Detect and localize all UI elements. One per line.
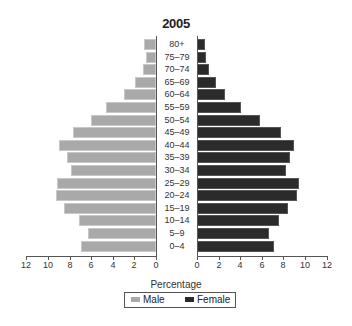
x-tick-label: 0	[146, 260, 166, 270]
legend-label-female: Female	[197, 294, 230, 305]
male-bar	[73, 127, 156, 138]
female-bar	[197, 203, 288, 214]
female-bar	[197, 178, 299, 189]
x-tick-label: 10	[38, 260, 58, 270]
female-bar	[197, 89, 225, 100]
age-group-label: 45–49	[157, 127, 197, 138]
male-bar	[67, 152, 156, 163]
x-tick-label: 2	[209, 260, 229, 270]
age-group-label: 75–79	[157, 52, 197, 63]
male-bar	[81, 241, 156, 252]
x-tick-label: 6	[252, 260, 272, 270]
age-group-label: 30–34	[157, 165, 197, 176]
age-group-label: 10–14	[157, 215, 197, 226]
age-group-label: 0–4	[157, 241, 197, 252]
female-bar	[197, 190, 297, 201]
age-group-label: 65–69	[157, 77, 197, 88]
pyramid-row: 0–4	[0, 241, 352, 252]
male-bar	[143, 64, 156, 75]
pyramid-row: 70–74	[0, 64, 352, 75]
legend-label-male: Male	[143, 294, 165, 305]
female-bar	[197, 52, 206, 63]
female-bar	[197, 140, 294, 151]
pyramid-row: 55–59	[0, 102, 352, 113]
age-group-label: 35–39	[157, 152, 197, 163]
male-swatch-icon	[131, 297, 140, 302]
x-tick-label: 0	[187, 260, 207, 270]
male-bar	[71, 165, 156, 176]
age-group-label: 5–9	[157, 228, 197, 239]
legend-item-female: Female	[185, 294, 230, 305]
pyramid-row: 10–14	[0, 215, 352, 226]
female-bar	[197, 64, 209, 75]
legend: Male Female	[124, 292, 236, 308]
age-group-label: 55–59	[157, 102, 197, 113]
male-bar	[64, 203, 156, 214]
age-group-label: 70–74	[157, 64, 197, 75]
male-axis-baseline	[156, 36, 157, 257]
male-bar	[144, 39, 156, 50]
male-bar	[79, 215, 156, 226]
male-bar	[57, 178, 156, 189]
x-tick-label: 10	[295, 260, 315, 270]
female-bar	[197, 228, 269, 239]
age-group-label: 60–64	[157, 89, 197, 100]
female-bar	[197, 152, 290, 163]
male-bar	[59, 140, 156, 151]
female-swatch-icon	[185, 297, 194, 302]
male-x-axis	[27, 256, 157, 257]
x-tick-label: 8	[273, 260, 293, 270]
pyramid-row: 60–64	[0, 89, 352, 100]
pyramid-row: 65–69	[0, 77, 352, 88]
female-bar	[197, 127, 281, 138]
x-tick-label: 6	[81, 260, 101, 270]
pyramid-row: 30–34	[0, 165, 352, 176]
age-group-label: 25–29	[157, 178, 197, 189]
pyramid-row: 40–44	[0, 140, 352, 151]
x-tick-label: 2	[124, 260, 144, 270]
male-bar	[124, 89, 156, 100]
x-tick-label: 4	[230, 260, 250, 270]
pyramid-row: 45–49	[0, 127, 352, 138]
age-group-label: 40–44	[157, 140, 197, 151]
x-axis-label: Percentage	[0, 279, 352, 290]
female-axis-baseline	[197, 36, 198, 257]
female-bar	[197, 77, 216, 88]
age-group-label: 15–19	[157, 203, 197, 214]
female-bar	[197, 165, 286, 176]
age-group-label: 20–24	[157, 190, 197, 201]
x-tick-label: 12	[16, 260, 36, 270]
x-tick-label: 12	[317, 260, 337, 270]
x-tick-label: 4	[103, 260, 123, 270]
age-group-label: 80+	[157, 39, 197, 50]
male-bar	[88, 228, 156, 239]
pyramid-row: 75–79	[0, 52, 352, 63]
male-bar	[135, 77, 156, 88]
female-bar	[197, 215, 279, 226]
male-bar	[91, 115, 156, 126]
female-bar	[197, 241, 274, 252]
pyramid-row: 20–24	[0, 190, 352, 201]
female-bar	[197, 102, 241, 113]
female-bar	[197, 39, 205, 50]
female-bar	[197, 115, 260, 126]
pyramid-row: 25–29	[0, 178, 352, 189]
pyramid-row: 50–54	[0, 115, 352, 126]
pyramid-row: 80+	[0, 39, 352, 50]
male-bar	[56, 190, 156, 201]
male-bar	[106, 102, 156, 113]
pyramid-row: 35–39	[0, 152, 352, 163]
pyramid-row: 5–9	[0, 228, 352, 239]
male-bar	[146, 52, 156, 63]
chart-title: 2005	[0, 16, 352, 31]
age-group-label: 50–54	[157, 115, 197, 126]
x-tick-label: 8	[60, 260, 80, 270]
legend-item-male: Male	[131, 294, 165, 305]
pyramid-row: 15–19	[0, 203, 352, 214]
